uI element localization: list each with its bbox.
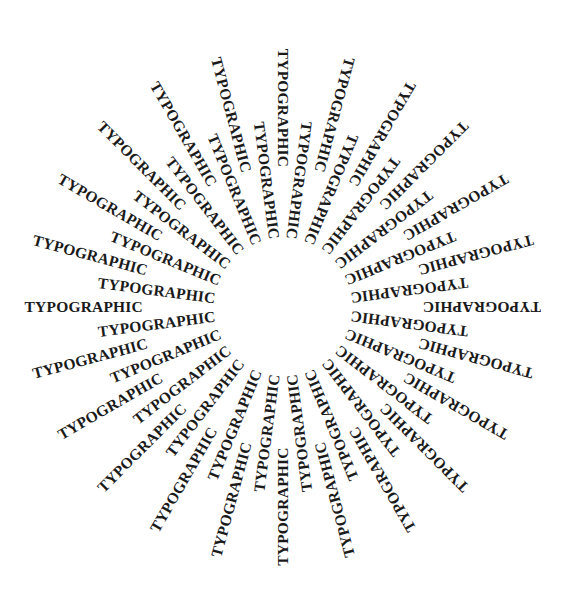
typographic-sunburst: TYPOGRAPHICTYPOGRAPHICTYPOGRAPHICTYPOGRA… [0,0,561,597]
word-ray-25: TYPOGRAPHIC [275,447,291,565]
word-ray-37: TYPOGRAPHIC [25,299,143,315]
word-ray-13: TYPOGRAPHIC [423,299,541,315]
word-ray-1: TYPOGRAPHIC [275,49,291,167]
